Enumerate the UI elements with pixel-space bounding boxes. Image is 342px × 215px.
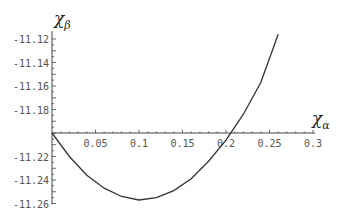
y-tick-label: -11.16 <box>13 81 49 92</box>
x-tick-label: 0.25 <box>257 138 281 149</box>
x-axis: 0.050.10.150.20.250.3 <box>52 130 322 149</box>
x-tick-label: 0.15 <box>170 138 194 149</box>
y-tick-label: -11.14 <box>13 58 49 69</box>
y-tick-label: -11.18 <box>13 105 49 116</box>
x-tick-label: 0.1 <box>130 138 148 149</box>
data-curve <box>52 34 278 200</box>
x-tick-label: 0.3 <box>304 138 322 149</box>
y-axis-label: χβ <box>53 8 71 32</box>
y-tick-label: -11.26 <box>13 199 49 210</box>
y-tick-label: -11.24 <box>13 175 49 186</box>
chart: -11.12-11.14-11.16-11.18-11.22-11.24-11.… <box>0 0 342 215</box>
y-axis: -11.12-11.14-11.16-11.18-11.22-11.24-11.… <box>13 31 56 209</box>
y-tick-label: -11.22 <box>13 152 49 163</box>
y-tick-label: -11.12 <box>13 34 49 45</box>
x-axis-label: χα <box>311 108 330 132</box>
x-tick-label: 0.05 <box>83 138 107 149</box>
